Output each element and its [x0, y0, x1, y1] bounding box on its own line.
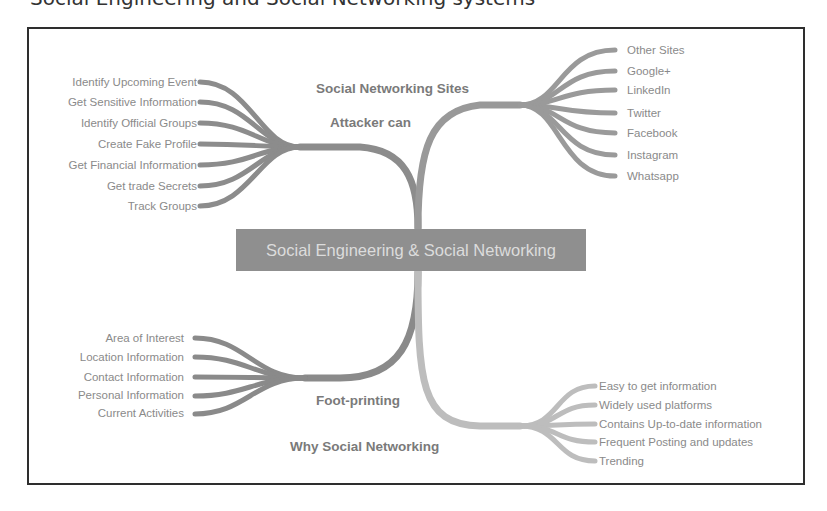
leaf-attacker[interactable]: Create Fake Profile — [98, 137, 197, 151]
leaf-footprinting[interactable]: Location Information — [80, 350, 184, 364]
leaf-site[interactable]: LinkedIn — [627, 83, 670, 97]
leaf-attacker[interactable]: Identify Official Groups — [81, 116, 197, 130]
leaf-attacker[interactable]: Get Financial Information — [69, 158, 197, 172]
leaf-site[interactable]: Other Sites — [627, 43, 685, 57]
leaf-attacker[interactable]: Identify Upcoming Event — [72, 75, 197, 89]
leaf-footprinting[interactable]: Area of Interest — [105, 331, 184, 345]
leaf-footprinting[interactable]: Personal Information — [78, 388, 184, 402]
leaf-site[interactable]: Whatsapp — [627, 169, 679, 183]
leaf-site[interactable]: Facebook — [627, 126, 678, 140]
leaf-footprinting[interactable]: Contact Information — [84, 370, 184, 384]
leaf-site[interactable]: Twitter — [627, 106, 661, 120]
branch-why-social-networking[interactable]: Why Social Networking — [290, 439, 439, 454]
central-topic[interactable]: Social Engineering & Social Networking — [236, 229, 586, 271]
leaf-site[interactable]: Google+ — [627, 64, 671, 78]
leaf-why[interactable]: Widely used platforms — [599, 398, 712, 412]
leaf-footprinting[interactable]: Current Activities — [98, 406, 184, 420]
branch-social-networking-sites[interactable]: Social Networking Sites — [316, 81, 469, 96]
leaf-attacker[interactable]: Get Sensitive Information — [68, 95, 197, 109]
branch-foot-printing[interactable]: Foot-printing — [316, 393, 400, 408]
central-topic-label: Social Engineering & Social Networking — [266, 241, 556, 260]
leaf-site[interactable]: Instagram — [627, 148, 678, 162]
branch-attacker-can[interactable]: Attacker can — [330, 115, 411, 130]
leaf-why[interactable]: Frequent Posting and updates — [599, 435, 753, 449]
leaf-attacker[interactable]: Get trade Secrets — [107, 179, 197, 193]
leaf-why[interactable]: Trending — [599, 454, 644, 468]
leaf-why[interactable]: Contains Up-to-date information — [599, 417, 762, 431]
leaf-attacker[interactable]: Track Groups — [128, 199, 197, 213]
leaf-why[interactable]: Easy to get information — [599, 379, 717, 393]
